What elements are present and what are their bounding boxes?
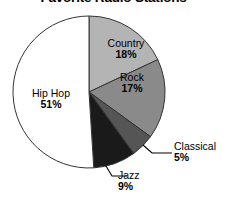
slice-label-hiphop-value: 51% bbox=[20, 99, 82, 110]
slice-label-hiphop: Hip Hop 51% bbox=[20, 88, 82, 110]
slice-label-jazz-value: 9% bbox=[118, 181, 154, 192]
slice-label-rock: Rock 17% bbox=[111, 72, 153, 94]
slice-label-rock-value: 17% bbox=[111, 83, 153, 94]
slice-label-jazz: Jazz 9% bbox=[118, 170, 154, 192]
slice-label-country: Country 18% bbox=[97, 38, 155, 60]
pie-chart-figure: Favorite Radio Stations Country 18% Rock… bbox=[0, 0, 227, 198]
slice-label-classical: Classical 5% bbox=[174, 141, 226, 163]
slice-label-classical-value: 5% bbox=[174, 152, 226, 163]
slice-label-country-value: 18% bbox=[97, 49, 155, 60]
leader-line-classical bbox=[143, 145, 172, 153]
